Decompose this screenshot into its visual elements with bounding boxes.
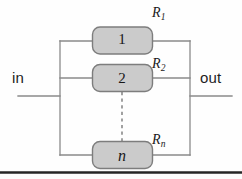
resistor-symbol-branch-1: R bbox=[152, 5, 161, 20]
wiring-group bbox=[18, 41, 232, 155]
resistor-symbol-branch-2: R bbox=[152, 56, 161, 71]
resistor-box-number-branch-n: n bbox=[92, 148, 152, 164]
resistor-label-branch-n: Rn bbox=[152, 133, 165, 147]
input-terminal-label: in bbox=[12, 70, 24, 85]
resistor-label-branch-1: R1 bbox=[152, 6, 165, 20]
resistor-subscript-branch-1: 1 bbox=[161, 12, 166, 22]
resistor-symbol-branch-n: R bbox=[152, 132, 161, 147]
output-terminal-label: out bbox=[200, 70, 221, 85]
circuit-diagram-figure: in out R1 R2 Rn 1 2 n bbox=[0, 0, 242, 179]
resistor-subscript-branch-n: n bbox=[161, 139, 166, 149]
resistor-subscript-branch-2: 2 bbox=[161, 63, 166, 73]
resistor-box-number-branch-2: 2 bbox=[92, 71, 152, 86]
resistor-label-branch-2: R2 bbox=[152, 57, 165, 71]
resistor-box-number-branch-1: 1 bbox=[92, 32, 152, 47]
